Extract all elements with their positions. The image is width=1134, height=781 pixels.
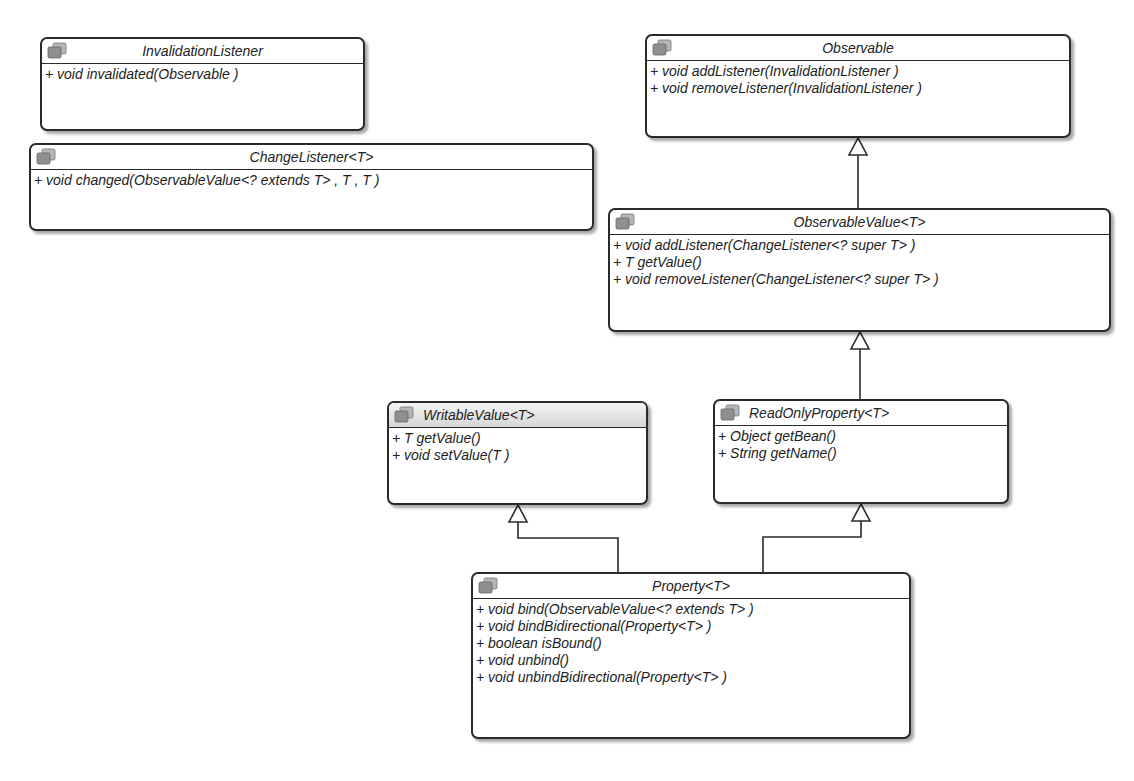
operation: + T getValue()	[392, 430, 643, 447]
class-header: ObservableValue<T>	[610, 210, 1109, 235]
interface-icon	[720, 404, 740, 421]
class-observablevalue[interactable]: ObservableValue<T> + void addListener(Ch…	[608, 208, 1111, 332]
class-property[interactable]: Property<T> + void bind(ObservableValue<…	[471, 572, 911, 739]
operation: + void bind(ObservableValue<? extends T>…	[476, 601, 906, 618]
operations-compartment: + T getValue() + void setValue(T )	[389, 428, 646, 466]
class-header: ReadOnlyProperty<T>	[715, 401, 1007, 426]
class-name: ChangeListener<T>	[250, 149, 374, 165]
class-header: WritableValue<T>	[389, 403, 646, 428]
operation: + void unbindBidirectional(Property<T> )	[476, 669, 906, 686]
operation: + void unbind()	[476, 652, 906, 669]
class-name: WritableValue<T>	[423, 407, 535, 423]
operation: + void removeListener(ChangeListener<? s…	[613, 271, 1106, 288]
hollow-arrow-icon	[849, 138, 867, 155]
generalization-property-writablevalue	[518, 505, 618, 572]
operation: + void bindBidirectional(Property<T> )	[476, 618, 906, 635]
class-name: ReadOnlyProperty<T>	[749, 405, 889, 421]
interface-icon	[615, 213, 635, 230]
class-writablevalue[interactable]: WritableValue<T> + T getValue() + void s…	[387, 401, 648, 505]
operation: + String getName()	[718, 445, 1004, 462]
operation: + T getValue()	[613, 254, 1106, 271]
class-name: Property<T>	[652, 578, 730, 594]
operations-compartment: + void bind(ObservableValue<? extends T>…	[473, 599, 909, 688]
class-header: Property<T>	[473, 574, 909, 599]
operations-compartment: + void invalidated(Observable )	[42, 64, 363, 85]
interface-icon	[47, 42, 67, 59]
operations-compartment: + Object getBean() + String getName()	[715, 426, 1007, 464]
class-readonlyproperty[interactable]: ReadOnlyProperty<T> + Object getBean() +…	[713, 399, 1009, 504]
operation: + boolean isBound()	[476, 635, 906, 652]
class-header: InvalidationListener	[42, 39, 363, 64]
class-changelistener[interactable]: ChangeListener<T> + void changed(Observa…	[29, 143, 594, 231]
operation: + void addListener(InvalidationListener …	[650, 63, 1066, 80]
operation: + void setValue(T )	[392, 447, 643, 464]
class-header: Observable	[647, 36, 1069, 61]
operations-compartment: + void addListener(InvalidationListener …	[647, 61, 1069, 99]
operations-compartment: + void addListener(ChangeListener<? supe…	[610, 235, 1109, 290]
generalization-property-readonlyproperty	[763, 504, 861, 572]
hollow-arrow-icon	[851, 332, 869, 349]
hollow-arrow-icon	[509, 505, 527, 522]
class-name: ObservableValue<T>	[794, 214, 926, 230]
hollow-arrow-icon	[852, 504, 870, 521]
class-header: ChangeListener<T>	[31, 145, 592, 170]
class-invalidationlistener[interactable]: InvalidationListener + void invalidated(…	[40, 37, 365, 131]
operation: + Object getBean()	[718, 428, 1004, 445]
class-observable[interactable]: Observable + void addListener(Invalidati…	[645, 34, 1071, 138]
class-name: Observable	[822, 40, 894, 56]
operation: + void removeListener(InvalidationListen…	[650, 80, 1066, 97]
interface-icon	[36, 148, 56, 165]
interface-icon	[478, 577, 498, 594]
operations-compartment: + void changed(ObservableValue<? extends…	[31, 170, 592, 191]
operation: + void invalidated(Observable )	[45, 66, 360, 83]
interface-icon	[394, 406, 414, 423]
operation: + void changed(ObservableValue<? extends…	[34, 172, 589, 189]
operation: + void addListener(ChangeListener<? supe…	[613, 237, 1106, 254]
interface-icon	[652, 39, 672, 56]
class-name: InvalidationListener	[142, 43, 263, 59]
